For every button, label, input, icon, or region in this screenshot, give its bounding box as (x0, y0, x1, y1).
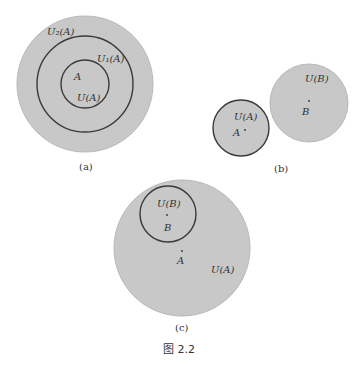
label-point-b-b: B (301, 106, 309, 117)
label-u-b-b: U(B) (305, 73, 329, 84)
point-a-dot-c (181, 250, 183, 252)
label-point-a: A (73, 71, 81, 82)
caption-a: (a) (79, 161, 93, 172)
label-u-a-b: U(A) (234, 111, 258, 122)
panel-c: U(B) B A U(A) (c) (114, 180, 250, 333)
point-b-dot (308, 100, 310, 102)
figure-caption: 图 2.2 (163, 343, 195, 356)
label-u-a-c: U(A) (211, 264, 235, 275)
circle-u-a-small (213, 100, 269, 156)
label-u2-a: U₂(A) (47, 26, 75, 37)
label-u-a: U(A) (77, 92, 101, 103)
label-u1-a: U₁(A) (97, 53, 125, 64)
label-u-b-c: U(B) (157, 198, 181, 209)
point-b-dot-c (166, 214, 168, 216)
circle-u-b-small (140, 186, 196, 242)
panel-a: U₂(A) U₁(A) A U(A) (a) (17, 16, 153, 172)
label-point-a-b: A (232, 127, 240, 138)
point-a-dot (244, 129, 246, 131)
panel-b: U(A) A U(B) B (b) (213, 64, 348, 174)
caption-c: (c) (175, 322, 189, 333)
caption-b: (b) (274, 163, 288, 174)
label-point-a-c: A (176, 255, 184, 266)
figure-canvas: U₂(A) U₁(A) A U(A) (a) U(A) A U(B) B (b)… (0, 0, 360, 365)
label-point-b-c: B (163, 222, 171, 233)
